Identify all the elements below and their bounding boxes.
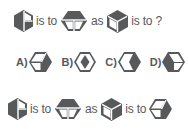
hexagon-cube-rotated-icon: [149, 99, 172, 119]
is-to-text: is to: [36, 14, 57, 28]
hexagon-dark-cube-icon: [162, 52, 185, 72]
option-b[interactable]: B): [62, 52, 97, 72]
as-text: as: [85, 102, 97, 116]
is-to-question-text: is to ?: [131, 14, 162, 28]
hexagon-cube-icon: [101, 98, 122, 121]
answer-row: is to as is to: [0, 97, 189, 121]
hexagon-cube-icon: [107, 10, 128, 33]
option-d[interactable]: D): [150, 52, 186, 72]
question-row: is to as is to ?: [0, 9, 189, 33]
hexagon-diamond-icon: [74, 52, 96, 72]
as-text: as: [91, 14, 103, 28]
option-label: C): [105, 56, 117, 68]
option-label: A): [16, 56, 28, 68]
hexagon-cube-rotated-icon: [29, 52, 52, 72]
option-label: D): [150, 56, 162, 68]
hexagon-half-split-icon: [14, 10, 33, 32]
options-row: A) B) C) D): [0, 50, 189, 74]
hexagon-right-wedge-icon: [118, 52, 141, 72]
is-to-text: is to: [30, 102, 51, 116]
option-a[interactable]: A): [16, 52, 52, 72]
option-c[interactable]: C): [105, 52, 141, 72]
hexagon-top-band-icon: [61, 11, 87, 31]
option-label: B): [62, 56, 74, 68]
hexagon-half-split-icon: [8, 98, 27, 120]
hexagon-top-band-icon: [55, 99, 81, 119]
is-to-text: is to: [125, 102, 146, 116]
